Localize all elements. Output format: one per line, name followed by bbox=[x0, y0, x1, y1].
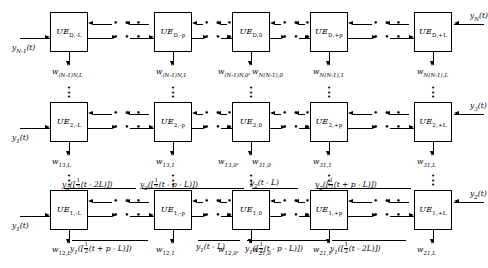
ue-box-row-2-1[interactable]: UE2,-p bbox=[154, 102, 192, 142]
arrow-left-row-1-2a bbox=[270, 199, 275, 203]
left-input-label-row-1: y1(t) bbox=[12, 221, 29, 232]
tap-arrow-row-D-3 bbox=[326, 61, 330, 66]
row1-top-bracket-1 bbox=[142, 188, 244, 189]
link-dn-seg-row-1-1a bbox=[192, 216, 203, 217]
ue-box-row-1-3[interactable]: UE1,+p bbox=[310, 190, 348, 230]
row1-bottom-signal-3: y1([12(t - 2L)]) bbox=[330, 242, 381, 254]
ue-box-row-2-2[interactable]: UE2,0 bbox=[232, 102, 270, 142]
ue-box-row-D-3[interactable]: UED,+p bbox=[310, 12, 348, 52]
ue-box-row-1-2[interactable]: UE1,0 bbox=[232, 190, 270, 230]
link-up-seg-row-D-3a bbox=[353, 24, 372, 25]
left-input-arrow-row-D bbox=[45, 35, 50, 39]
ue-box-row-D-2[interactable]: UED,0 bbox=[232, 12, 270, 52]
row1-top-bracket-3 bbox=[317, 188, 411, 189]
link-up-seg-row-1-0b bbox=[130, 202, 149, 203]
weight-label-row-2-0: w13,L bbox=[52, 157, 71, 168]
row1-bottom-bracket-1 bbox=[198, 240, 240, 241]
tap-arrow-row-1-4 bbox=[430, 239, 434, 244]
arrow-right-row-1-0b bbox=[149, 213, 154, 217]
ue-box-row-D-1[interactable]: UED,-p bbox=[154, 12, 192, 52]
arrow-left-row-D-3b bbox=[385, 21, 390, 25]
right-input-arrow-row-1 bbox=[454, 199, 459, 203]
link-up-seg-row-1-1b bbox=[221, 202, 227, 203]
row1-bottom-signal-2: y1([12(t - p - L)]) bbox=[245, 242, 303, 254]
arrow-left-row-2-0b bbox=[125, 111, 130, 115]
ue-box-label: UE2,-p bbox=[161, 117, 185, 128]
link-up-seg-row-1-2b bbox=[299, 202, 305, 203]
vertical-ellipsis-row-2-4: ••• bbox=[429, 86, 437, 100]
arrow-left-row-1-1b bbox=[216, 199, 221, 203]
arrow-left-row-1-2b bbox=[294, 199, 299, 203]
link-up-seg-row-1-1a bbox=[197, 202, 203, 203]
arrow-left-row-2-2a bbox=[270, 111, 275, 115]
arrow-right-row-D-3b bbox=[409, 35, 414, 39]
vertical-ellipsis-row-2-3: ••• bbox=[325, 86, 333, 100]
weight-label-row-1-1: w12,1 bbox=[156, 245, 175, 256]
ue-box-label: UE1,-L bbox=[57, 205, 82, 216]
weight-label-row-D-3: wN(N-1),0 bbox=[252, 67, 283, 78]
ue-box-row-D-0[interactable]: UED,-L bbox=[50, 12, 88, 52]
tap-arrow-row-2-2 bbox=[248, 151, 252, 156]
link-dn-seg-row-2-0a bbox=[88, 128, 112, 129]
arrow-left-row-2-1a bbox=[192, 111, 197, 115]
weight-label-row-D-2: w(N-1)N,0, bbox=[218, 67, 251, 78]
arrow-left-row-2-2b bbox=[294, 111, 299, 115]
weight-label-row-D-5: wN(N-1),L bbox=[417, 67, 448, 78]
tap-arrow-row-1-1 bbox=[170, 239, 174, 244]
arrow-left-row-2-3a bbox=[348, 111, 353, 115]
ue-box-row-2-3[interactable]: UE2,+p bbox=[310, 102, 348, 142]
ue-box-row-2-4[interactable]: UE2,+L bbox=[414, 102, 452, 142]
right-input-arrow-row-2 bbox=[454, 111, 459, 115]
ue-box-label: UE2,-L bbox=[57, 117, 82, 128]
link-up-seg-row-2-3b bbox=[390, 114, 409, 115]
link-up-seg-row-2-1b bbox=[221, 114, 227, 115]
ue-box-label: UE1,+L bbox=[419, 205, 446, 216]
weight-label-row-2-3: w31,0 bbox=[252, 157, 271, 168]
row1-bottom-bracket-2 bbox=[247, 240, 329, 241]
arrow-left-row-D-2a bbox=[270, 21, 275, 25]
ue-box-label: UE1,-p bbox=[161, 205, 185, 216]
arrow-right-row-2-2b bbox=[305, 125, 310, 129]
ue-box-row-2-0[interactable]: UE2,-L bbox=[50, 102, 88, 142]
link-up-seg-row-2-2b bbox=[299, 114, 305, 115]
link-up-seg-row-1-2a bbox=[275, 202, 281, 203]
ue-box-label: UED,0 bbox=[239, 27, 262, 38]
ue-box-row-1-4[interactable]: UE1,+L bbox=[414, 190, 452, 230]
arrow-left-row-1-3b bbox=[385, 199, 390, 203]
weight-label-row-2-5: w31,L bbox=[417, 157, 436, 168]
tap-arrow-row-2-4 bbox=[430, 151, 434, 156]
link-dn-seg-row-2-2a bbox=[270, 128, 281, 129]
right-input-label-row-2: y3(t) bbox=[470, 101, 487, 112]
ue-box-label: UE2,0 bbox=[240, 117, 262, 128]
link-up-seg-row-2-2a bbox=[275, 114, 281, 115]
arrow-right-row-2-0b bbox=[149, 125, 154, 129]
ue-box-label: UED,-p bbox=[160, 27, 185, 38]
weight-label-row-1-5: w21,L bbox=[417, 245, 436, 256]
ue-box-label: UE2,+p bbox=[315, 117, 342, 128]
link-up-seg-row-D-1b bbox=[221, 24, 227, 25]
row1-bottom-signal-1: y1(t - L) bbox=[196, 242, 225, 253]
row1-top-bracket-0 bbox=[64, 188, 136, 189]
link-dn-seg-row-1-3a bbox=[348, 216, 372, 217]
link-up-seg-row-D-0a bbox=[93, 24, 112, 25]
ue-box-row-1-1[interactable]: UE1,-p bbox=[154, 190, 192, 230]
arrow-right-row-2-1b bbox=[227, 125, 232, 129]
link-up-seg-row-D-1a bbox=[197, 24, 203, 25]
link-dn-seg-row-D-3a bbox=[348, 38, 372, 39]
row1-bottom-bracket-0 bbox=[72, 240, 148, 241]
vertical-ellipsis-row-2-1: ••• bbox=[169, 86, 177, 100]
link-up-seg-row-1-3b bbox=[390, 202, 409, 203]
arrow-left-row-2-1b bbox=[216, 111, 221, 115]
link-up-seg-row-2-0a bbox=[93, 114, 112, 115]
ue-box-row-1-0[interactable]: UE1,-L bbox=[50, 190, 88, 230]
vertical-ellipsis-row-2-2: ••• bbox=[247, 86, 255, 100]
arrow-right-row-1-1b bbox=[227, 213, 232, 217]
arrow-left-row-D-0b bbox=[125, 21, 130, 25]
arrow-left-row-2-3b bbox=[385, 111, 390, 115]
arrow-left-row-1-1a bbox=[192, 199, 197, 203]
ue-box-label: UE1,0 bbox=[240, 205, 262, 216]
left-input-arrow-row-1 bbox=[45, 213, 50, 217]
arrow-left-row-D-0a bbox=[88, 21, 93, 25]
ue-box-row-D-4[interactable]: UED,+L bbox=[414, 12, 452, 52]
